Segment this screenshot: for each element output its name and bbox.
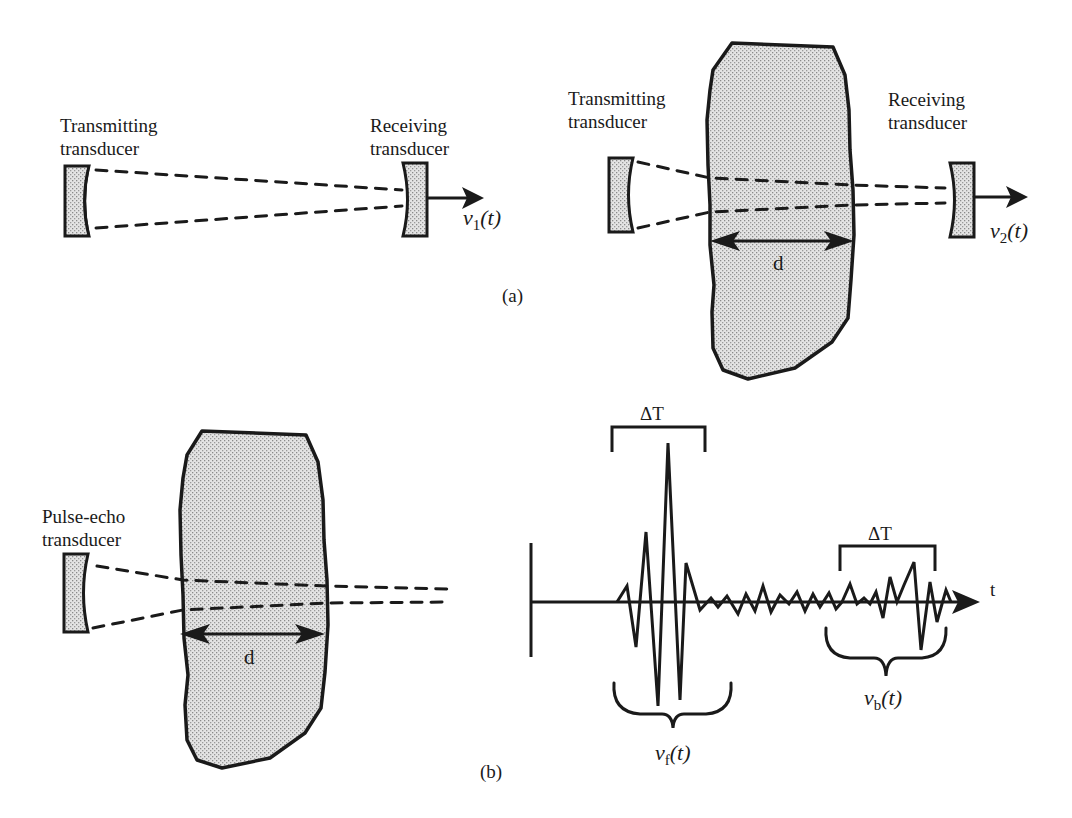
panel-b-label: (b): [480, 761, 502, 783]
panel-a-label: (a): [502, 285, 523, 307]
echo-waveform-plot: t ΔT ΔT vf(t) vb(t): [531, 403, 996, 768]
receiver-label-line2: transducer: [888, 112, 968, 133]
ultrasound-measurement-diagram: Transmitting transducer Receiving transd…: [0, 0, 1072, 818]
beam-upper-edge: [96, 170, 402, 190]
back-echo-label: vb(t): [864, 685, 902, 713]
thickness-label-d: d: [773, 251, 784, 275]
receiver-label-line1: Receiving: [888, 89, 966, 110]
back-window-bracket: [840, 546, 935, 571]
receiver-label-line2: transducer: [370, 138, 450, 159]
front-window-bracket: [612, 427, 705, 452]
transmitter-label-line1: Transmitting: [60, 115, 158, 136]
back-echo-brace: [826, 628, 946, 676]
panel-b-pulse-echo-setup: Pulse-echo transducer d: [42, 431, 448, 768]
time-axis-label: t: [990, 579, 996, 600]
panel-a-sample-setup: Transmitting transducer Receiving transd…: [568, 43, 1028, 379]
back-window-label: ΔT: [868, 523, 892, 544]
transmitter-label-line2: transducer: [60, 138, 140, 159]
receiving-transducer-icon: [950, 163, 974, 237]
front-echo-brace: [614, 683, 731, 728]
signal-v1-label: v1(t): [463, 205, 501, 233]
front-window-label: ΔT: [640, 403, 664, 424]
front-echo-waveform: [617, 443, 842, 706]
transmitting-transducer-icon: [609, 158, 633, 232]
thickness-label-d: d: [244, 645, 255, 669]
sample-block: [180, 431, 328, 768]
pulse-echo-transducer-icon: [64, 554, 88, 632]
pulse-echo-label-line1: Pulse-echo: [42, 506, 125, 527]
receiving-transducer-icon: [403, 163, 427, 236]
back-echo-waveform: [842, 562, 951, 650]
front-echo-label: vf(t): [655, 740, 691, 768]
beam-lower-edge: [96, 206, 402, 228]
pulse-echo-label-line2: transducer: [42, 529, 122, 550]
transmitter-label-line2: transducer: [568, 111, 648, 132]
sample-block: [707, 43, 854, 379]
signal-v2-label: v2(t): [990, 218, 1028, 246]
transmitter-label-line1: Transmitting: [568, 88, 666, 109]
panel-a-reference-setup: Transmitting transducer Receiving transd…: [60, 115, 501, 236]
receiver-label-line1: Receiving: [370, 115, 448, 136]
